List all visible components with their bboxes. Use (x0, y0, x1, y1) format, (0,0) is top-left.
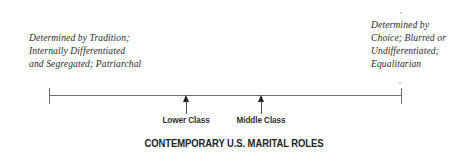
figure-title: CONTEMPORARY U.S. MARITAL ROLES (0, 137, 470, 150)
marker-middle-class-label: Middle Class (237, 114, 286, 125)
left-pole-line-1: Determined by Tradition; (29, 31, 141, 44)
left-pole-line-3: and Segregated; Patriarchal (29, 57, 141, 70)
left-pole-line-2: Internally Differentiated (29, 44, 141, 57)
scan-speck (399, 82, 401, 84)
marker-stem (261, 101, 262, 114)
right-pole-description: Determined by Choice; Blurred or Undiffe… (371, 18, 446, 70)
marker-stem (186, 101, 187, 114)
right-pole-line-1: Determined by (371, 18, 446, 31)
continuum-axis-line (49, 95, 401, 96)
left-pole-description: Determined by Tradition; Internally Diff… (29, 31, 141, 70)
marital-roles-continuum-figure: Determined by Tradition; Internally Diff… (0, 0, 470, 159)
right-pole-line-4: Equalitarian (371, 57, 446, 70)
right-pole-line-3: Undifferentiated; (371, 44, 446, 57)
axis-left-endcap (49, 88, 50, 104)
scan-speck (400, 12, 402, 14)
axis-right-endcap (401, 88, 402, 104)
marker-lower-class-label: Lower Class (162, 114, 209, 125)
right-pole-line-2: Choice; Blurred or (371, 31, 446, 44)
figure-title-text: CONTEMPORARY U.S. MARITAL ROLES (145, 137, 324, 150)
